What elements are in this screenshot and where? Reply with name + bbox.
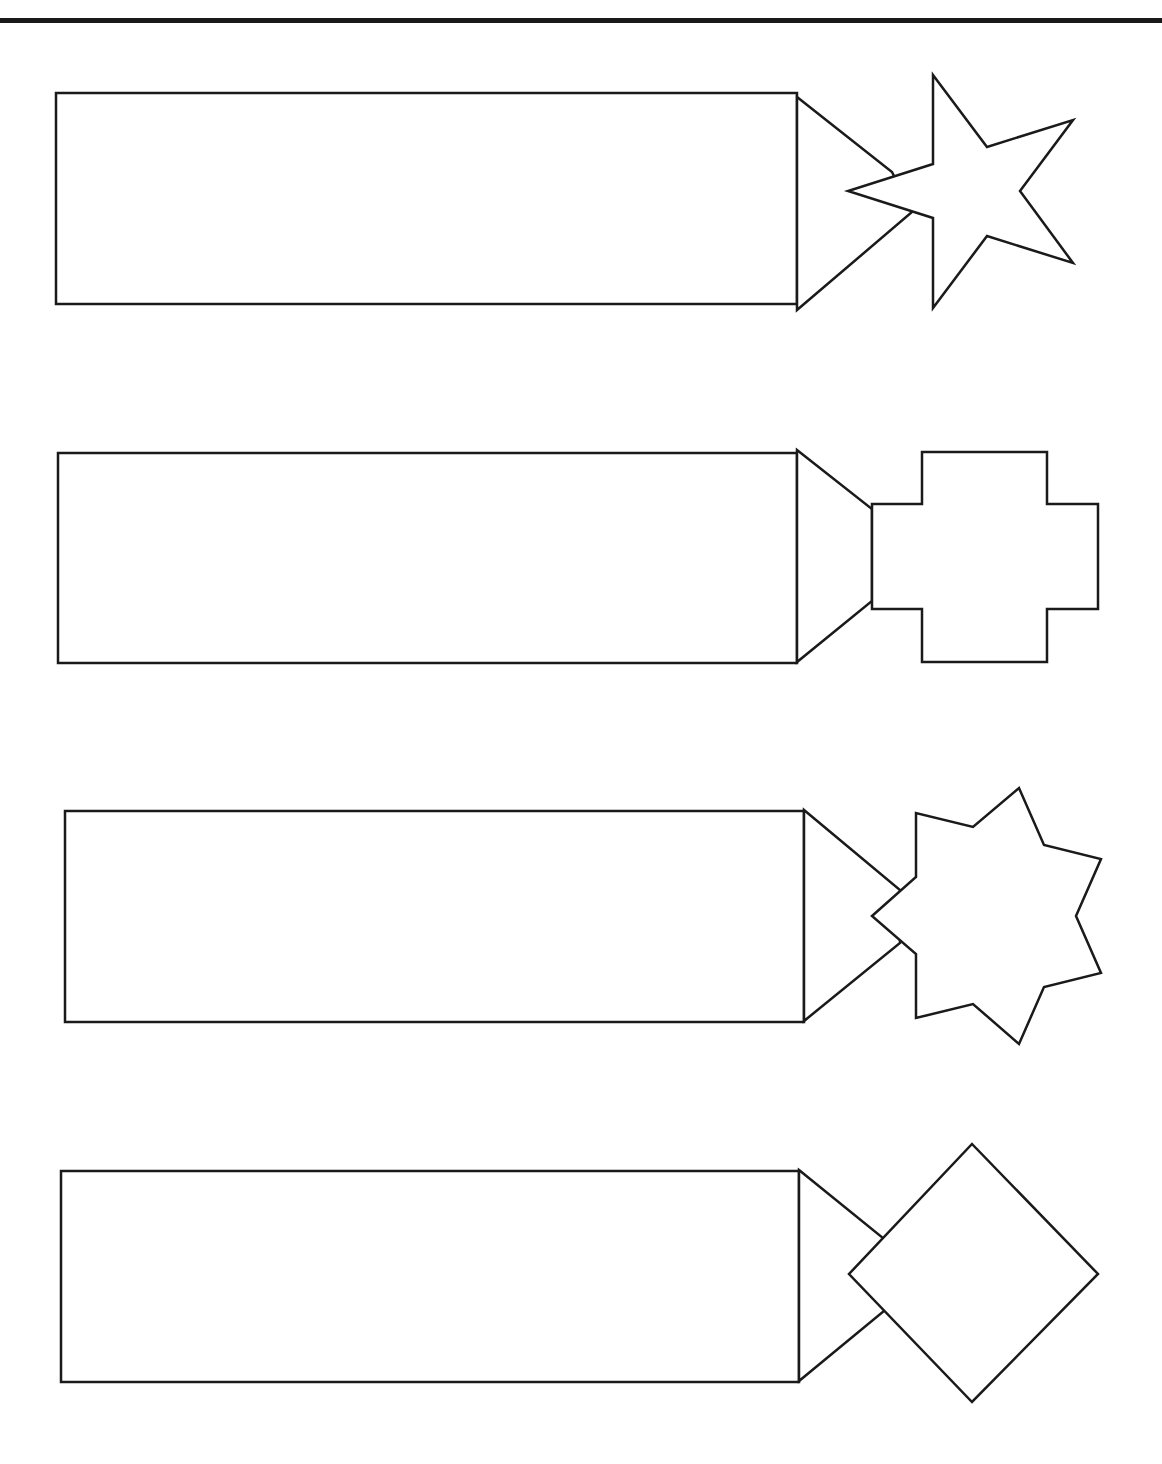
worksheet-canvas [0, 0, 1162, 1464]
row-cross [58, 450, 1098, 663]
row-diamond [61, 1144, 1098, 1402]
row-star-five-point [56, 75, 1073, 310]
cross-icon [872, 452, 1098, 662]
crayon-body-3 [65, 811, 804, 1022]
crayon-body-1 [56, 93, 797, 304]
crayon-body-2 [58, 453, 797, 663]
diamond-icon [849, 1144, 1098, 1402]
crayon-tip-2 [797, 450, 872, 662]
five-point-star-icon [848, 75, 1073, 308]
row-star-seven-point [65, 788, 1101, 1044]
seven-point-star-icon [872, 788, 1101, 1044]
crayon-body-4 [61, 1171, 799, 1382]
